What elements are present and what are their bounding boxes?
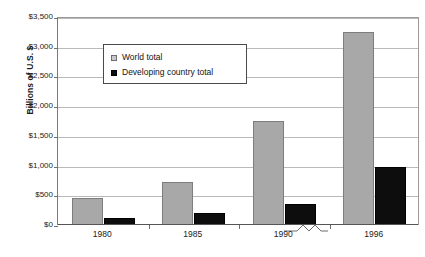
y-tick-mark [54, 18, 58, 19]
bar-1996-world-total [343, 32, 374, 225]
y-tick-mark [54, 107, 58, 108]
bar-1990-world-total [253, 121, 284, 225]
y-tick-label: $2,500 [0, 72, 53, 80]
y-tick-mark [54, 137, 58, 138]
y-tick-label: $1,500 [0, 132, 53, 140]
y-tick-mark [54, 48, 58, 49]
legend-item-world-total[interactable]: World total [111, 50, 246, 65]
bar-chart: Billions of U.S. $ World total Developin… [0, 0, 425, 257]
world-total-swatch-icon [111, 55, 117, 61]
y-tick-label: $0 [0, 221, 53, 229]
bar-1980-world-total [72, 198, 103, 225]
x-tick-mark [149, 225, 150, 229]
y-tick-mark [54, 167, 58, 168]
bar-1985-world-total [162, 182, 193, 225]
cropped-title-sliver [95, 0, 345, 5]
y-tick-label: $500 [0, 191, 53, 199]
x-tick-label-1980: 1980 [67, 230, 137, 239]
x-tick-label-1985: 1985 [158, 230, 228, 239]
x-tick-mark [330, 225, 331, 229]
developing-country-total-swatch-icon [111, 70, 117, 76]
x-tick-label-1996: 1996 [339, 230, 409, 239]
y-tick-label: $2,000 [0, 102, 53, 110]
y-tick-mark [54, 226, 58, 227]
legend-label-world-total: World total [122, 53, 162, 62]
y-tick-label: $1,000 [0, 162, 53, 170]
x-tick-label-1990: 1990 [248, 230, 318, 239]
x-tick-mark [239, 225, 240, 229]
y-tick-mark [54, 77, 58, 78]
bar-1996-developing-country-total [375, 167, 406, 225]
x-axis-baseline [58, 224, 418, 225]
chart-legend: World total Developing country total [103, 44, 247, 84]
gridline [58, 18, 418, 19]
y-tick-label: $3,500 [0, 13, 53, 21]
y-tick-label: $3,000 [0, 43, 53, 51]
legend-item-developing-country-total[interactable]: Developing country total [111, 65, 246, 80]
legend-label-developing-country-total: Developing country total [122, 68, 213, 77]
y-tick-mark [54, 196, 58, 197]
